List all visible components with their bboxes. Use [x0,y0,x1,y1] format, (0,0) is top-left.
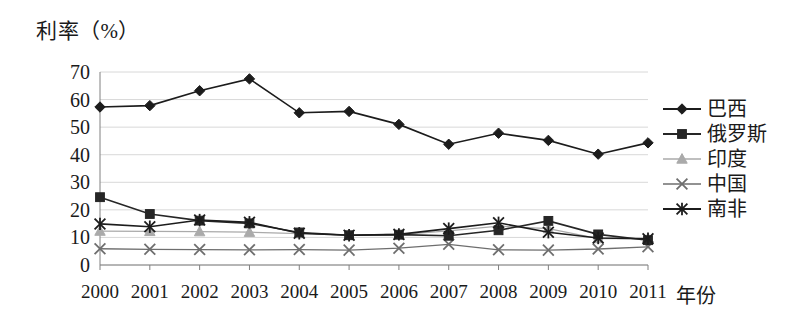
data-point-square [678,129,687,138]
legend-marker-cross-icon [662,174,702,194]
data-point-diamond [677,103,687,113]
series-2 [95,221,653,243]
y-tick-label: 10 [52,227,90,247]
data-point-diamond [244,74,254,84]
legend-item-2[interactable]: 印度 [662,146,806,171]
x-tick-label: 2008 [473,282,525,301]
chart-legend: 巴西俄罗斯印度中国南非 [662,96,806,221]
data-point-diamond [444,139,454,149]
x-tick-label: 2009 [522,282,574,301]
x-tick-label: 2006 [373,282,425,301]
data-point-square [544,216,553,225]
data-point-square [96,193,105,202]
interest-rate-line-chart: 利率（%） 年份 706050403020100 200020012002200… [0,0,806,331]
data-point-diamond [95,102,105,112]
legend-label: 中国 [702,174,747,194]
y-tick-label: 40 [52,145,90,165]
legend-marker-square-icon [662,124,702,144]
data-point-diamond [493,128,503,138]
series-line [100,226,648,238]
x-tick-label: 2000 [74,282,126,301]
y-tick-label: 30 [52,172,90,192]
y-tick-label: 50 [52,117,90,137]
legend-item-1[interactable]: 俄罗斯 [662,121,806,146]
legend-label: 俄罗斯 [702,124,767,144]
data-point-diamond [593,149,603,159]
x-tick-label: 2011 [622,282,674,301]
legend-label: 南非 [702,199,747,219]
series-3 [95,239,654,256]
legend-item-0[interactable]: 巴西 [662,96,806,121]
legend-marker-star-icon [662,199,702,219]
data-point-square [145,210,154,219]
series-line [100,220,648,239]
data-point-diamond [394,119,404,129]
series-line [100,244,648,250]
data-point-diamond [543,135,553,145]
x-tick-label: 2010 [572,282,624,301]
series-line [100,79,648,154]
y-tick-label: 70 [52,62,90,82]
data-point-diamond [643,138,653,148]
x-tick-label: 2003 [223,282,275,301]
y-tick-label: 20 [52,200,90,220]
legend-marker-triangle-icon [662,149,702,169]
series-0 [95,74,653,160]
y-tick-label: 0 [52,255,90,275]
data-point-diamond [344,106,354,116]
data-point-diamond [294,108,304,118]
legend-item-4[interactable]: 南非 [662,196,806,221]
x-tick-label: 2002 [174,282,226,301]
x-tick-label: 2001 [124,282,176,301]
x-tick-label: 2005 [323,282,375,301]
legend-item-3[interactable]: 中国 [662,171,806,196]
x-tick-label: 2004 [273,282,325,301]
legend-label: 印度 [702,149,747,169]
x-tick-label: 2007 [423,282,475,301]
legend-label: 巴西 [702,99,747,119]
y-tick-label: 60 [52,90,90,110]
data-point-diamond [145,100,155,110]
series-1 [96,193,653,245]
data-point-diamond [194,86,204,96]
legend-marker-diamond-icon [662,99,702,119]
